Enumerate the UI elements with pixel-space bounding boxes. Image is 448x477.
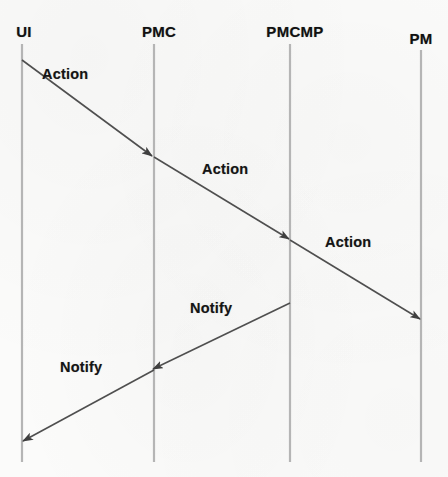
message-label-action-pmcmp-to-pm: Action — [325, 234, 371, 250]
message-label-notify-pmc-to-ui: Notify — [60, 359, 102, 375]
message-label-notify-pmcmp-to-pmc: Notify — [190, 300, 232, 316]
message-label-action-ui-to-pmc: Action — [42, 66, 88, 82]
lifeline-header-pmcmp: PMCMP — [266, 23, 323, 40]
lifeline-header-pmc: PMC — [142, 23, 176, 40]
sequence-diagram-canvas: UI PMC PMCMP PM Action Action Action Not… — [0, 0, 448, 477]
messages-group — [22, 60, 420, 441]
lifeline-header-pm: PM — [409, 30, 432, 47]
lifelines-group — [22, 44, 421, 462]
lifeline-header-ui: UI — [16, 23, 32, 40]
message-arrow-notify-pmc-to-ui — [23, 370, 154, 441]
message-label-action-pmc-to-pmcmp: Action — [202, 161, 248, 177]
message-arrow-action-pmcmp-to-pm — [290, 240, 420, 319]
